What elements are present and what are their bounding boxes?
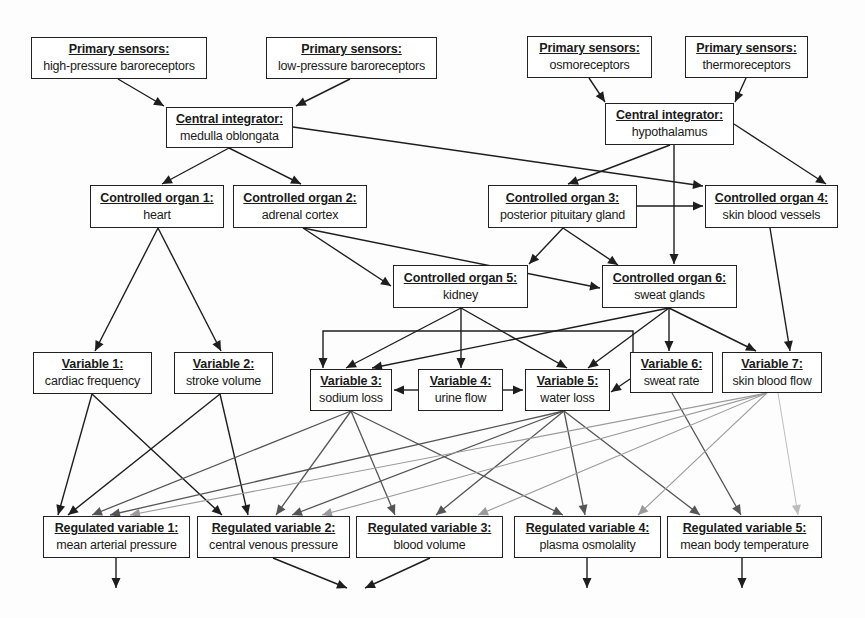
arrowhead-icon (583, 578, 592, 588)
arrowhead-icon (607, 256, 618, 265)
arrowhead-icon (738, 578, 747, 588)
arrow-v1-to-rv2 (92, 394, 222, 515)
arrow-ps_hp-to-ci_medulla (118, 79, 164, 106)
node-subtitle: plasma osmolality (540, 537, 636, 554)
node-primary-sensors-high-pressure-baroreceptors: Primary sensors: high-pressure barorecep… (31, 37, 207, 79)
arrow-rv3-to-out (365, 558, 430, 588)
arrow-co6-to-v7 (669, 308, 756, 351)
arrowhead-icon (693, 202, 703, 211)
arrow-v2-to-rv1 (68, 394, 220, 515)
arrowhead-icon (665, 341, 674, 351)
arrow-v4-to-v3 (394, 386, 418, 395)
node-title: Controlled organ 5: (404, 270, 517, 287)
arrowhead-icon (556, 359, 567, 368)
arrow-v6-to-v3 (319, 331, 634, 368)
node-title: Regulated variable 1: (55, 520, 179, 537)
arrow-ci_hypo-to-co6 (670, 145, 679, 264)
arrowhead-icon (589, 282, 600, 291)
node-primary-sensors-low-pressure-baroreceptors: Primary sensors: low-pressure barorecept… (266, 37, 437, 79)
node-controlled-organ-2-adrenal-cortex: Controlled organ 2: adrenal cortex (233, 185, 367, 228)
arrow-rv1-to-out (112, 558, 121, 588)
node-central-integrator-hypothalamus: Central integrator: hypothalamus (605, 103, 734, 145)
node-subtitle: blood volume (394, 537, 466, 554)
arrow-co5-to-v5 (461, 308, 567, 368)
node-controlled-organ-5-kidney: Controlled organ 5: kidney (393, 265, 528, 308)
node-subtitle: posterior pituitary gland (500, 207, 625, 224)
arrowhead-icon (276, 504, 285, 515)
node-primary-sensors-osmoreceptors: Primary sensors: osmoreceptors (527, 36, 652, 78)
arrowhead-icon (611, 383, 622, 392)
node-title: Primary sensors: (539, 40, 640, 57)
arrowhead-icon (588, 358, 599, 368)
arrow-v7-to-rv3 (478, 393, 767, 515)
homeostasis-flow-diagram: Primary sensors: high-pressure barorecep… (0, 0, 865, 618)
node-title: Primary sensors: (301, 41, 402, 58)
arrow-co5-to-v3 (346, 308, 461, 368)
arrowhead-icon (56, 504, 65, 515)
arrow-ps_osmo-to-ci_hypo (589, 78, 605, 102)
node-subtitle: mean arterial pressure (56, 537, 177, 554)
node-title: Regulated variable 5: (683, 520, 807, 537)
node-subtitle: thermoreceptors (702, 57, 790, 74)
arrow-v3-to-rv4 (351, 411, 563, 515)
arrow-v4-to-v5 (503, 386, 523, 395)
arrowhead-icon (689, 505, 700, 515)
arrow-v7-to-rv5 (778, 393, 801, 515)
node-title: Primary sensors: (69, 41, 170, 58)
node-subtitle: osmoreceptors (549, 57, 629, 74)
node-title: Variable 2: (193, 356, 254, 373)
arrow-co3-to-co4 (637, 202, 703, 211)
node-variable-3-sodium-loss: Variable 3: sodium loss (310, 369, 392, 411)
arrow-v7-to-rv2 (322, 393, 767, 517)
node-regulated-variable-2-central-venous-pressure: Regulated variable 2: central venous pre… (197, 516, 350, 558)
arrowhead-icon (792, 504, 801, 515)
node-variable-2-stroke-volume: Variable 2: stroke volume (174, 352, 273, 394)
arrowhead-icon (292, 507, 303, 515)
arrowhead-icon (815, 175, 826, 184)
arrow-v6-to-rv5 (672, 393, 741, 515)
arrowhead-icon (394, 386, 404, 395)
node-controlled-organ-3-posterior-pituitary: Controlled organ 3: posterior pituitary … (488, 185, 637, 228)
node-subtitle: mean body temperature (680, 537, 809, 554)
node-subtitle: sweat rate (644, 373, 700, 390)
node-title: Primary sensors: (696, 40, 797, 57)
arrow-co1-to-v1 (95, 228, 158, 351)
node-subtitle: cardiac frequency (45, 373, 140, 390)
arrow-ci_medulla-to-co2 (229, 148, 301, 184)
node-title: Regulated variable 2: (212, 520, 336, 537)
arrow-co4-to-v7 (770, 228, 793, 351)
node-title: Regulated variable 4: (526, 520, 650, 537)
node-subtitle: central venous pressure (209, 537, 338, 554)
node-regulated-variable-3-blood-volume: Regulated variable 3: blood volume (356, 516, 503, 558)
node-title: Controlled organ 6: (613, 270, 726, 287)
arrow-co3-to-co6 (563, 228, 618, 265)
node-controlled-organ-4-skin-blood-vessels: Controlled organ 4: skin blood vessels (705, 185, 838, 228)
arrow-rv5-to-out (738, 558, 747, 588)
arrow-v1-to-rv1 (56, 394, 92, 515)
arrowhead-icon (596, 91, 605, 102)
arrow-v6-to-v5 (611, 379, 630, 392)
node-title: Variable 1: (62, 356, 123, 373)
arrowhead-icon (513, 386, 523, 395)
arrow-co5-to-v4 (457, 308, 466, 368)
node-subtitle: hypothalamus (632, 124, 707, 141)
arrowhead-icon (380, 277, 391, 286)
node-subtitle: skin blood vessels (723, 207, 821, 224)
arrow-v3-to-rv1 (92, 411, 351, 515)
arrowhead-icon (319, 358, 328, 368)
arrow-ps_lp-to-ci_medulla (296, 79, 350, 106)
arrow-ps_thermo-to-ci_hypo (735, 78, 746, 102)
node-title: Controlled organ 2: (243, 190, 356, 207)
arrowhead-icon (68, 505, 79, 515)
arrow-co1-to-v2 (158, 228, 221, 351)
arrowhead-icon (153, 97, 164, 106)
arrow-ci_medulla-to-co1 (162, 148, 229, 184)
arrow-v5-to-rv5 (564, 411, 700, 515)
arrow-co6-to-v6 (665, 308, 674, 351)
arrowhead-icon (568, 176, 579, 184)
node-variable-5-water-loss: Variable 5: water loss (525, 369, 610, 411)
node-controlled-organ-1-heart: Controlled organ 1: heart (90, 185, 224, 228)
node-regulated-variable-1-mean-arterial-pressure: Regulated variable 1: mean arterial pres… (43, 516, 190, 558)
node-regulated-variable-4-plasma-osmolality: Regulated variable 4: plasma osmolality (514, 516, 661, 558)
arrow-co3-to-co5 (529, 228, 563, 264)
